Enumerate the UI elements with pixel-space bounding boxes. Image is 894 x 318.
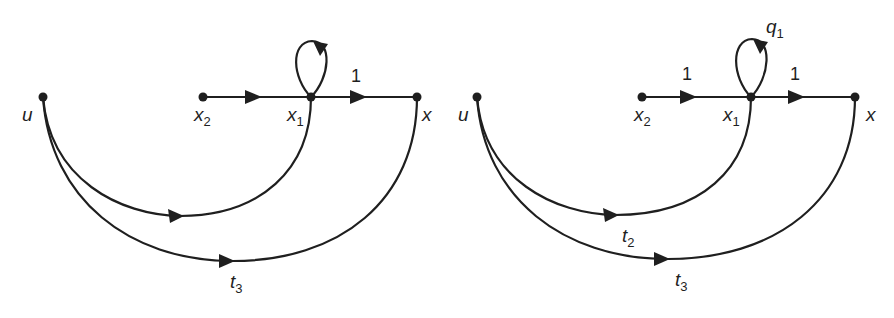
signal-flow-graphs: u x2 x1 x 1 t3 u x2 x1 x 1 1 q1 t2 [0,0,894,318]
arrow-u-x-icon [654,252,670,266]
node-x2 [199,93,208,102]
node-x1 [747,93,756,102]
diagram-left: u x2 x1 x 1 t3 [22,41,433,296]
gain-u-x: t3 [675,269,688,294]
label-x2: x2 [193,104,211,129]
node-x [851,93,860,102]
label-x1: x1 [286,104,304,129]
arrow-u-x-icon [219,254,235,268]
label-u: u [458,104,469,125]
gain-x2-x1: 1 [682,64,692,84]
edge-u-x [477,97,855,259]
node-u [473,93,482,102]
edge-u-x1 [477,97,751,215]
arrow-x1-x-icon [350,90,367,104]
gain-self-loop: q1 [766,16,784,41]
label-x: x [421,104,433,125]
node-x [413,93,422,102]
diagram-right: u x2 x1 x 1 1 q1 t2 t3 [458,16,877,294]
label-x: x [865,104,877,125]
gain-x1-x: 1 [351,66,361,86]
arrow-x2-x1-icon [680,90,697,104]
arrow-u-x1-icon [603,208,619,222]
edge-u-x [43,97,417,261]
gain-u-x: t3 [230,271,243,296]
arrow-x2-x1-icon [245,90,262,104]
node-u [39,93,48,102]
label-u: u [22,104,33,125]
label-x2: x2 [633,104,651,129]
node-x2 [638,93,647,102]
arrow-x1-x-icon [788,90,805,104]
gain-u-x1: t2 [622,225,635,250]
gain-x1-x: 1 [790,64,800,84]
label-x1: x1 [722,104,740,129]
node-x1 [307,93,316,102]
arrow-u-x1-icon [168,209,184,223]
